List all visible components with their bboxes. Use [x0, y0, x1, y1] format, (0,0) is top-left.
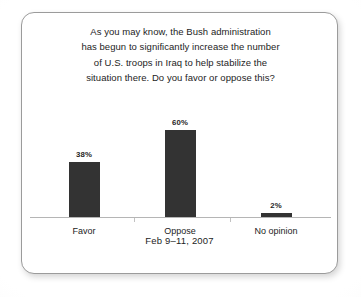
- question-line-1: As you may know, the Bush administration: [36, 24, 325, 39]
- bar-value-oppose: 60%: [132, 118, 228, 127]
- axis-tick-2: [230, 218, 231, 222]
- category-label-oppose: Oppose: [132, 226, 228, 236]
- question-line-3: of U.S. troops in Iraq to help stabilize…: [36, 55, 325, 70]
- category-label-no-opinion: No opinion: [228, 226, 324, 236]
- bar-value-no-opinion: 2%: [228, 201, 324, 210]
- x-axis-line: [30, 217, 331, 219]
- bar-group-favor: 38% Favor: [36, 162, 132, 217]
- question-line-2: has begun to significantly increase the …: [36, 39, 325, 54]
- bar-group-no-opinion: 2% No opinion: [228, 213, 324, 217]
- bar-group-oppose: 60% Oppose: [132, 130, 228, 217]
- bar-rect-favor: [69, 162, 100, 217]
- bar-value-favor: 38%: [36, 150, 132, 159]
- poll-question: As you may know, the Bush administration…: [36, 24, 325, 86]
- bar-rect-oppose: [165, 130, 196, 217]
- category-label-favor: Favor: [36, 226, 132, 236]
- bar-rect-no-opinion: [261, 213, 292, 217]
- question-line-4: situation there. Do you favor or oppose …: [36, 70, 325, 85]
- poll-card: As you may know, the Bush administration…: [21, 12, 338, 274]
- poll-date-label: Feb 9–11, 2007: [22, 235, 337, 246]
- axis-tick-1: [134, 218, 135, 222]
- chart-canvas: As you may know, the Bush administration…: [0, 0, 361, 297]
- bar-chart-plot: 38% Favor 60% Oppose 2% No opinion: [30, 106, 331, 218]
